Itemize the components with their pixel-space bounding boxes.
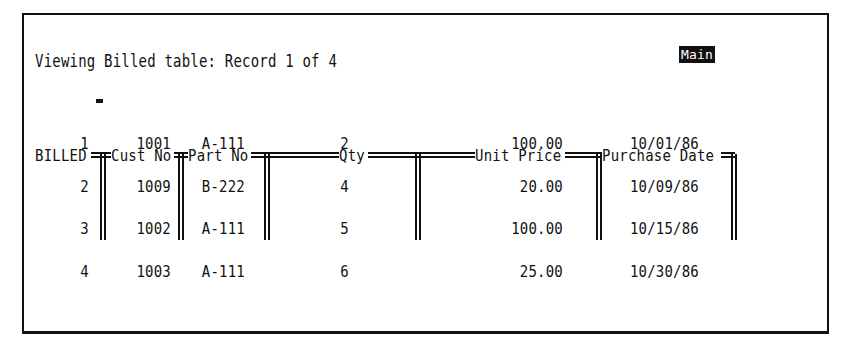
cell-record: 1 [77, 135, 89, 152]
mode-indicator: Main [679, 46, 715, 63]
cell-qty: 4 [335, 178, 349, 195]
cell-unit-price: 100.00 [505, 135, 563, 152]
column-separator [596, 154, 602, 240]
terminal-screen: Viewing Billed table: Record 1 of 4 Main… [22, 13, 829, 334]
cell-part-no: A-111 [197, 220, 245, 237]
cell-cust-no: 1003 [135, 263, 171, 280]
cell-qty: 5 [335, 220, 349, 237]
cell-qty: 2 [335, 135, 349, 152]
cell-part-no: B-222 [197, 178, 245, 195]
cell-purchase-date: 10/09/86 [625, 178, 699, 195]
cell-cust-no: 1001 [135, 135, 171, 152]
header-rule [368, 152, 475, 158]
table-row[interactable]: 3 1002 A-111 5 100.00 10/15/86 [35, 220, 104, 235]
cell-qty: 6 [335, 263, 349, 280]
column-separator [264, 154, 270, 240]
cell-unit-price: 25.00 [505, 263, 563, 280]
table-body: 1 1001 A-111 2 100.00 10/01/86 2 1009 B-… [35, 107, 104, 305]
billed-table: BILLED Cust No Part No Qty Unit Price Pu… [35, 91, 87, 246]
cell-cust-no: 1009 [135, 178, 171, 195]
cell-unit-price: 100.00 [505, 220, 563, 237]
cell-purchase-date: 10/30/86 [625, 263, 699, 280]
table-row[interactable]: 2 1009 B-222 4 20.00 10/09/86 [35, 178, 104, 193]
column-separator [178, 154, 184, 240]
record-cursor [96, 99, 103, 103]
cell-cust-no: 1002 [135, 220, 171, 237]
cell-record: 2 [77, 178, 89, 195]
cell-record: 4 [77, 263, 89, 280]
column-separator [415, 154, 421, 240]
cell-part-no: A-111 [197, 263, 245, 280]
table-row[interactable]: 4 1003 A-111 6 25.00 10/30/86 [35, 263, 104, 278]
cell-purchase-date: 10/15/86 [625, 220, 699, 237]
status-line: Viewing Billed table: Record 1 of 4 [35, 53, 337, 70]
table-row[interactable]: 1 1001 A-111 2 100.00 10/01/86 [35, 135, 104, 150]
cell-unit-price: 20.00 [505, 178, 563, 195]
cell-record: 3 [77, 220, 89, 237]
column-separator [731, 154, 737, 240]
cell-purchase-date: 10/01/86 [625, 135, 699, 152]
cell-part-no: A-111 [197, 135, 245, 152]
